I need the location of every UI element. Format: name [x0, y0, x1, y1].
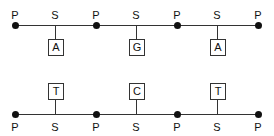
phosphate-dot [174, 111, 181, 118]
base-box: C [129, 83, 145, 100]
phosphate-label: P [251, 9, 265, 21]
phosphate-label: P [170, 121, 184, 133]
base-connector [136, 25, 137, 39]
base-box: G [129, 39, 145, 56]
phosphate-label: P [89, 121, 103, 133]
phosphate-dot [12, 22, 19, 29]
top-backbone [15, 25, 259, 26]
phosphate-dot [255, 22, 262, 29]
base-connector [136, 100, 137, 114]
sugar-label: S [48, 121, 62, 133]
base-connector [217, 25, 218, 39]
sugar-label: S [210, 121, 224, 133]
base-box: A [48, 39, 64, 56]
phosphate-label: P [89, 9, 103, 21]
phosphate-dot [255, 111, 262, 118]
base-connector [55, 100, 56, 114]
base-connector [217, 100, 218, 114]
base-box: T [48, 83, 64, 100]
sugar-label: S [210, 9, 224, 21]
phosphate-dot [174, 22, 181, 29]
phosphate-label: P [170, 9, 184, 21]
phosphate-label: P [8, 9, 22, 21]
phosphate-dot [93, 22, 100, 29]
sugar-label: S [129, 121, 143, 133]
sugar-label: S [48, 9, 62, 21]
phosphate-dot [93, 111, 100, 118]
phosphate-label: P [8, 121, 22, 133]
phosphate-label: P [251, 121, 265, 133]
phosphate-dot [12, 111, 19, 118]
base-box: A [210, 39, 226, 56]
base-box: T [210, 83, 226, 100]
bottom-backbone [15, 114, 259, 115]
sugar-label: S [129, 9, 143, 21]
base-connector [55, 25, 56, 39]
